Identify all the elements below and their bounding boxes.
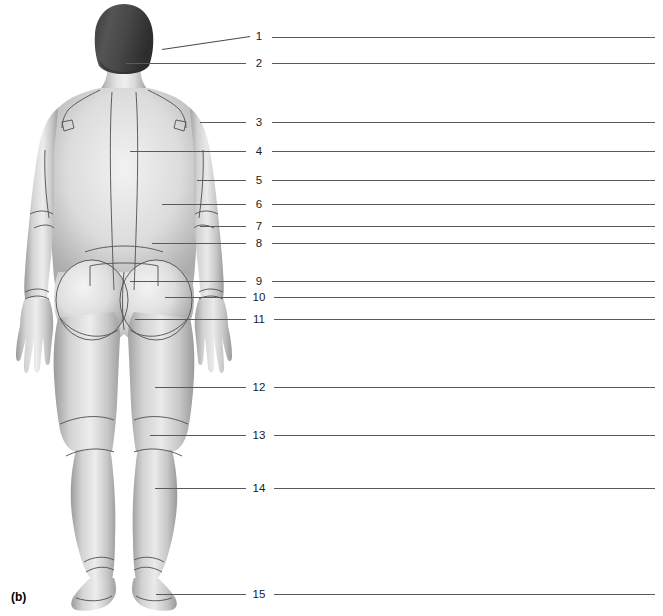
leader-line-5-b xyxy=(272,180,655,181)
leader-line-14 xyxy=(155,488,246,489)
leader-line-10 xyxy=(165,297,246,298)
leader-line-9 xyxy=(130,281,246,282)
leader-line-8 xyxy=(152,243,246,244)
panel-letter: (b) xyxy=(11,590,26,604)
leader-line-2-b xyxy=(272,63,655,64)
leader-line-3-b xyxy=(272,122,655,123)
leader-line-12-b xyxy=(274,387,655,388)
leader-line-10-b xyxy=(274,297,655,298)
leader-line-1-b xyxy=(272,37,655,38)
leader-line-11-b xyxy=(274,319,655,320)
leader-line-3 xyxy=(200,122,246,123)
body-silhouette xyxy=(16,4,232,611)
callout-number-6: 6 xyxy=(246,198,272,210)
leader-line-13-b xyxy=(274,435,655,436)
leader-line-4 xyxy=(130,151,246,152)
callout-number-8: 8 xyxy=(246,237,272,249)
leader-line-6 xyxy=(162,204,246,205)
leader-line-12 xyxy=(155,387,246,388)
leader-line-4-b xyxy=(272,151,655,152)
leader-line-6-b xyxy=(272,204,655,205)
callout-number-2: 2 xyxy=(246,57,272,69)
callout-number-4: 4 xyxy=(246,145,272,157)
leader-line-7-b xyxy=(272,226,655,227)
callout-number-5: 5 xyxy=(246,174,272,186)
leader-line-8-b xyxy=(272,243,655,244)
callout-number-13: 13 xyxy=(246,429,272,441)
callout-number-11: 11 xyxy=(246,313,272,325)
callout-number-7: 7 xyxy=(246,220,272,232)
callout-number-1: 1 xyxy=(246,30,272,42)
callout-number-15: 15 xyxy=(246,588,272,600)
leader-line-15 xyxy=(156,594,246,595)
callout-number-10: 10 xyxy=(246,291,272,303)
leader-line-5 xyxy=(197,180,246,181)
leader-line-11 xyxy=(135,319,246,320)
callout-number-12: 12 xyxy=(246,381,272,393)
human-body-posterior-illustration xyxy=(0,0,250,616)
callout-number-14: 14 xyxy=(246,482,272,494)
leader-line-15-b xyxy=(274,594,655,595)
leader-line-2 xyxy=(126,63,246,64)
callout-number-9: 9 xyxy=(246,275,272,287)
leader-line-7 xyxy=(200,226,246,227)
leader-line-13 xyxy=(150,435,246,436)
anatomy-figure-panel: 1 (ear) 2 (posterior head) 3 (shoulder) … xyxy=(0,0,663,616)
callout-number-3: 3 xyxy=(246,116,272,128)
leader-line-14-b xyxy=(274,488,655,489)
leader-line-9-b xyxy=(272,281,655,282)
